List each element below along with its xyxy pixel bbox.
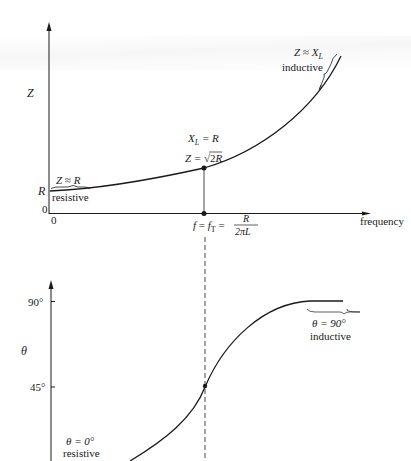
tick-90-label: 90° [28, 296, 43, 308]
phase-plot: θ 90° 45° θ = 0° resistive θ = 90° induc… [21, 237, 360, 461]
crossover-frequency-point [202, 211, 207, 216]
resistive-label: resistive [52, 191, 89, 203]
impedance-curve [50, 56, 341, 191]
phase-resistive-formula: θ = 0° [66, 435, 95, 447]
r-tick-label: R [37, 184, 46, 198]
theta-axis-label: θ [21, 344, 27, 358]
svg-text:2πL: 2πL [235, 226, 251, 237]
phase-inductive-label: inductive [310, 330, 351, 342]
resistive-formula: Z ≈ R [56, 174, 81, 186]
theta-axis-arrow-icon [49, 280, 54, 289]
svg-text:R: R [242, 213, 249, 224]
svg-text:f = fT =: f = fT = [193, 219, 225, 234]
zero-y-tick-label: 0 [42, 203, 48, 215]
phase-inductive-brace [307, 309, 360, 314]
frequency-axis-label: frequency [360, 215, 404, 227]
tick-45-label: 45° [30, 381, 45, 393]
inductive-label: inductive [282, 61, 323, 73]
z-axis-label: Z [27, 86, 34, 100]
crossover-point [202, 166, 207, 171]
z-root2r-label: Z = √2R [185, 152, 223, 164]
phase-resistive-label: resistive [63, 447, 100, 459]
inductive-formula: Z ≈ XL [294, 46, 323, 61]
phase-45-point [203, 384, 207, 388]
crossover-frequency-formula: f = fT = R 2πL [193, 213, 258, 237]
z-axis-arrow-icon [47, 22, 52, 31]
xl-equals-r-label: XL = R [187, 132, 219, 147]
phase-inductive-formula: θ = 90° [312, 317, 346, 329]
impedance-plot: Z R 0 0 frequency Z ≈ R resistive Z ≈ XL… [27, 22, 404, 237]
zero-x-tick-label: 0 [51, 214, 57, 226]
